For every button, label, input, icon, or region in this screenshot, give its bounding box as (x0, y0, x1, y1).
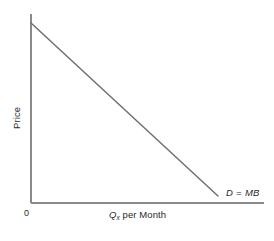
plot-area (0, 0, 274, 241)
demand-curve (31, 23, 218, 196)
x-axis-label-text: per Month (123, 209, 167, 220)
y-axis-label: Price (12, 107, 22, 129)
demand-curve-label: D = MB (226, 188, 260, 198)
x-axis-label-subscript: x (117, 214, 120, 221)
origin-label: 0 (24, 209, 29, 218)
x-axis-label-symbol: Q (109, 209, 117, 220)
x-axis-label: Qx per Month (109, 210, 166, 220)
demand-curve-figure: Price Qx per Month 0 D = MB (0, 0, 274, 241)
